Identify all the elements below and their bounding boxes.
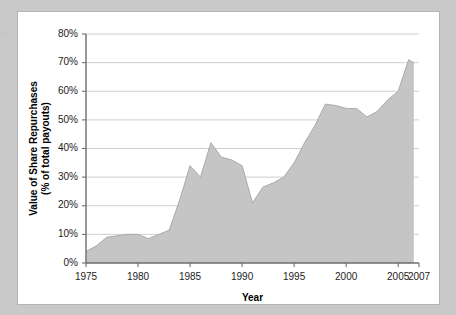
x-axis-title: Year <box>242 292 263 303</box>
y-tick-label: 50% <box>58 114 78 125</box>
area-series-fill <box>86 60 414 263</box>
chart-panel: 0%10%20%30%40%50%60%70%80% 1975198019851… <box>17 11 440 305</box>
y-tick-label: 20% <box>58 199 78 210</box>
y-tick-label: 70% <box>58 56 78 67</box>
y-axis-title: Value of Share Repurchases (% of total p… <box>28 81 51 216</box>
y-axis-title-line2: (% of total payouts) <box>40 102 51 195</box>
y-axis-title-line1: Value of Share Repurchases <box>28 81 39 216</box>
area-chart: 0%10%20%30%40%50%60%70%80% 1975198019851… <box>18 12 441 306</box>
x-tick-group: 19751980198519901995200020052007 <box>75 263 431 282</box>
x-tick-label: 1980 <box>127 271 150 282</box>
x-tick-label: 1995 <box>283 271 306 282</box>
y-tick-label: 0% <box>64 257 79 268</box>
y-tick-group: 0%10%20%30%40%50%60%70%80% <box>58 28 86 268</box>
y-tick-label: 10% <box>58 228 78 239</box>
y-tick-label: 60% <box>58 85 78 96</box>
y-tick-label: 30% <box>58 171 78 182</box>
x-tick-label: 1975 <box>75 271 98 282</box>
x-tick-label: 2000 <box>335 271 358 282</box>
plot-area: 0%10%20%30%40%50%60%70%80% 1975198019851… <box>18 12 441 306</box>
y-tick-label: 40% <box>58 142 78 153</box>
data-series-group <box>86 60 414 263</box>
edge-artifact-text: s <box>3 27 13 39</box>
x-tick-label: 1990 <box>231 271 254 282</box>
x-tick-label: 1985 <box>179 271 202 282</box>
x-tick-label: 2005 <box>387 271 410 282</box>
x-tick-label: 2007 <box>408 271 431 282</box>
y-tick-label: 80% <box>58 28 78 39</box>
